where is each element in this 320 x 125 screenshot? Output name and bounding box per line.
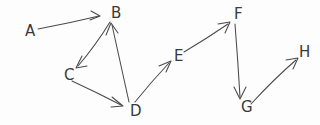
edge-e-f-line bbox=[184, 24, 228, 52]
edge-a-b-line bbox=[38, 16, 99, 29]
node-label-h: H bbox=[299, 43, 311, 61]
edge-d-b bbox=[106, 23, 129, 102]
edge-d-e-line bbox=[135, 63, 169, 102]
node-label-e: E bbox=[174, 47, 184, 65]
node-label-b: B bbox=[111, 4, 122, 22]
node-label-d: D bbox=[130, 102, 142, 120]
edge-c-d bbox=[72, 81, 123, 107]
edge-g-h-line bbox=[251, 60, 296, 104]
edge-group bbox=[38, 11, 298, 107]
edge-f-g-line bbox=[235, 24, 240, 97]
node-label-f: F bbox=[234, 5, 243, 23]
edge-a-b bbox=[38, 11, 100, 29]
graph-diagram: A B C D E F G H bbox=[0, 0, 320, 125]
edge-e-f bbox=[184, 22, 230, 52]
node-label-a: A bbox=[25, 22, 36, 40]
edge-a-b-arrowhead-icon bbox=[90, 11, 100, 20]
edge-f-g bbox=[234, 24, 246, 99]
edge-d-b-line bbox=[112, 25, 129, 102]
node-label-c: C bbox=[64, 66, 75, 84]
edge-b-c bbox=[76, 22, 110, 68]
edge-d-e bbox=[135, 61, 171, 102]
edge-b-c-line bbox=[78, 22, 110, 66]
node-label-g: G bbox=[241, 98, 253, 116]
edge-c-d-arrowhead-icon bbox=[111, 97, 123, 107]
graph-canvas: A B C D E F G H bbox=[0, 0, 320, 125]
edge-g-h bbox=[251, 58, 298, 104]
edge-c-d-line bbox=[72, 81, 121, 105]
